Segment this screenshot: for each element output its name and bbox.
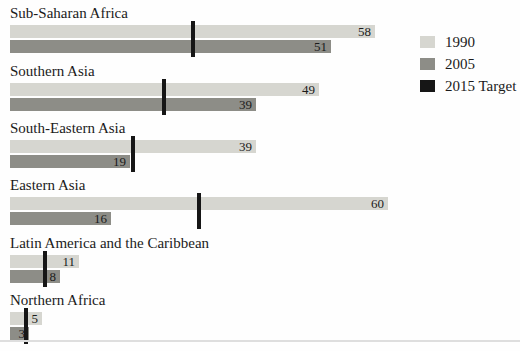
bar-2005: 51 — [10, 40, 331, 53]
bar-2005: 19 — [10, 155, 130, 168]
bar-2005: 16 — [10, 212, 111, 225]
target-marker-2015 — [131, 136, 135, 172]
category-label: Latin America and the Caribbean — [10, 235, 209, 251]
value-label-1990: 60 — [371, 197, 384, 210]
bottom-divider — [0, 340, 520, 342]
target-marker-2015 — [197, 193, 201, 229]
value-label-1990: 39 — [239, 140, 252, 153]
bar-2005: 8 — [10, 270, 60, 283]
value-label-2005: 8 — [50, 270, 57, 283]
bar-2005: 39 — [10, 98, 256, 111]
poverty-bar-chart: Sub-Saharan Africa5851Southern Asia4939S… — [0, 0, 520, 351]
legend-swatch-2015-target — [420, 80, 435, 92]
value-label-2005: 39 — [239, 98, 252, 111]
value-label-1990: 49 — [302, 83, 315, 96]
category-label: Sub-Saharan Africa — [10, 5, 128, 21]
value-label-1990: 11 — [62, 255, 75, 268]
category-label: Southern Asia — [10, 63, 95, 79]
category-label: Eastern Asia — [10, 177, 85, 193]
legend-label: 2015 Target — [445, 77, 516, 95]
category-label: Northern Africa — [10, 292, 105, 308]
target-marker-2015 — [191, 21, 195, 57]
value-label-1990: 5 — [32, 312, 39, 325]
legend-swatch-2005 — [420, 58, 435, 70]
legend-swatch-1990 — [420, 36, 435, 48]
value-label-2005: 19 — [113, 155, 126, 168]
target-marker-2015 — [162, 79, 166, 115]
target-marker-2015 — [24, 308, 28, 344]
value-label-2005: 16 — [94, 212, 107, 225]
category-label: South-Eastern Asia — [10, 120, 125, 136]
legend-label: 2005 — [445, 55, 475, 73]
value-label-2005: 51 — [314, 40, 327, 53]
legend-label: 1990 — [445, 33, 475, 51]
value-label-1990: 58 — [358, 25, 371, 38]
target-marker-2015 — [43, 251, 47, 287]
